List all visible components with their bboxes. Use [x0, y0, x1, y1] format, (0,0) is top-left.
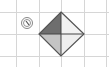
rotate-icon — [22, 18, 33, 29]
diamond-shape — [39, 12, 84, 56]
grid-diagram — [0, 0, 109, 67]
